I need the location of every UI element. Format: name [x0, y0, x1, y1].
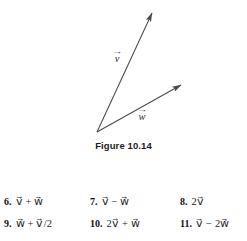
exercise-item-9[interactable]: 9. w⃗ + v⃗/2 [0, 217, 86, 229]
vector-v-label: → v [113, 50, 121, 64]
exercise-number: 10. [90, 218, 103, 229]
exercise-expression: 2v⃗ [192, 195, 205, 207]
exercise-number: 8. [180, 196, 188, 207]
exercise-expression: v⃗ + w⃗ [16, 195, 44, 207]
exercise-expression: 2v⃗ + w⃗ [107, 217, 141, 229]
vector-arrow-accent-w: → [137, 108, 147, 112]
exercise-item-7[interactable]: 7. v⃗ − w⃗ [86, 195, 176, 207]
exercise-expression: v⃗ − 2w⃗ [196, 217, 230, 229]
figure-10-14: → v → w Figure 10.14 [0, 0, 247, 160]
exercise-row: 6. v⃗ + w⃗ 7. v⃗ − w⃗ 8. 2v⃗ [0, 190, 247, 212]
exercise-list: 6. v⃗ + w⃗ 7. v⃗ − w⃗ 8. 2v⃗ 9. w⃗ + v⃗/… [0, 190, 247, 241]
exercise-item-6[interactable]: 6. v⃗ + w⃗ [0, 195, 86, 207]
exercise-expression: w⃗ + v⃗/2 [16, 217, 53, 229]
exercise-row: 9. w⃗ + v⃗/2 10. 2v⃗ + w⃗ 11. v⃗ − 2w⃗ [0, 212, 247, 234]
vector-arrow-accent-v: → [112, 50, 122, 54]
exercise-number: 6. [4, 196, 12, 207]
exercise-item-10[interactable]: 10. 2v⃗ + w⃗ [86, 217, 176, 229]
vector-w-label: → w [138, 108, 146, 122]
exercise-item-11[interactable]: 11. v⃗ − 2w⃗ [176, 217, 247, 229]
exercise-number: 9. [4, 218, 12, 229]
exercise-number: 7. [90, 196, 98, 207]
figure-caption: Figure 10.14 [0, 140, 247, 151]
exercise-number: 11. [180, 218, 192, 229]
exercise-item-8[interactable]: 8. 2v⃗ [176, 195, 247, 207]
vector-diagram [0, 0, 247, 140]
exercise-expression: v⃗ − w⃗ [102, 195, 130, 207]
